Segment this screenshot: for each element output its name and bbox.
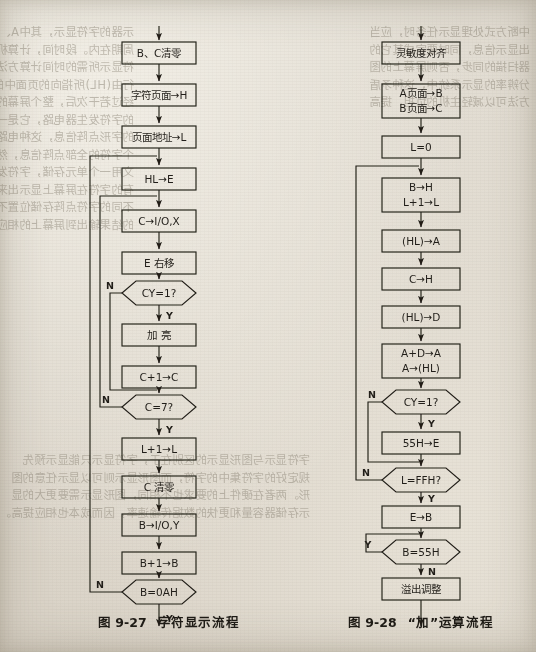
label-m1: 灵敏度对齐 — [396, 47, 447, 59]
branch-n10-Y: Y — [165, 424, 173, 435]
label-n15: B=0AH — [140, 586, 178, 598]
label-n11: L+1→L — [141, 443, 177, 455]
branch-n15-N: N — [96, 579, 104, 590]
caption-title-left: 字符显示流程 — [158, 615, 240, 630]
label-m5: (HL)→A — [402, 235, 441, 247]
caption-number-right: 图 9-28 — [348, 615, 397, 630]
label-n9: C+1→C — [140, 371, 179, 383]
label-m11: L=FFH? — [401, 474, 441, 486]
label-n12: C 清零 — [144, 481, 176, 493]
branch-n7-Y: Y — [165, 310, 173, 321]
branch-n10-N: N — [102, 394, 110, 405]
label-n13: B→I/O,Y — [139, 519, 180, 531]
label-m6: C→H — [409, 273, 433, 285]
caption-fig-9-28: 图 9-28“加”运算流程 — [348, 612, 493, 631]
label-n10: C=7? — [145, 401, 173, 413]
branch-m9-Y: Y — [427, 418, 435, 429]
label-m7: (HL)→D — [402, 311, 441, 323]
caption-number-left: 图 9-27 — [98, 615, 147, 630]
label-n6: E 右移 — [144, 257, 175, 269]
branch-m9-N: N — [368, 389, 376, 400]
branch-m13-Y: Y — [364, 539, 372, 550]
caption-title-right: “加”运算流程 — [408, 615, 494, 630]
edge-m11-N-loop — [356, 166, 419, 480]
label-n8: 加 亮 — [147, 329, 170, 341]
label-m9: CY=1? — [404, 396, 439, 408]
node-label-group: B、C清零 字符页面→H 页面地址→L HL→E C→I/O,X E 右移 CY… — [131, 47, 447, 598]
label-n1: B、C清零 — [137, 47, 183, 59]
label-m13: B=55H — [402, 546, 439, 558]
branch-m13-N: N — [428, 566, 436, 577]
branch-m11-N: N — [362, 467, 370, 478]
label-m4b: L+1→L — [403, 196, 439, 208]
label-n3: 页面地址→L — [132, 131, 187, 143]
label-m4a: B→H — [409, 181, 433, 193]
label-m8a: A+D→A — [401, 347, 442, 359]
caption-fig-9-27: 图 9-27字符显示流程 — [98, 612, 239, 631]
label-m8b: A→(HL) — [402, 362, 440, 374]
flowchart-canvas: B、C清零 字符页面→H 页面地址→L HL→E C→I/O,X E 右移 CY… — [0, 0, 536, 652]
label-m14: 溢出调整 — [401, 583, 442, 595]
label-n2: 字符页面→H — [131, 89, 188, 101]
label-m12: E→B — [410, 511, 433, 523]
label-n14: B+1→B — [140, 557, 179, 569]
label-m2a: A页面→B — [399, 87, 442, 99]
label-m3: L=0 — [410, 141, 431, 153]
label-m10: 55H→E — [403, 437, 440, 449]
branch-n7-N: N — [106, 280, 114, 291]
label-n7: CY=1? — [142, 287, 177, 299]
label-m2b: B页面→C — [399, 102, 442, 114]
branch-m11-Y: Y — [427, 493, 435, 504]
label-n5: C→I/O,X — [138, 215, 180, 227]
label-n4: HL→E — [144, 173, 173, 185]
